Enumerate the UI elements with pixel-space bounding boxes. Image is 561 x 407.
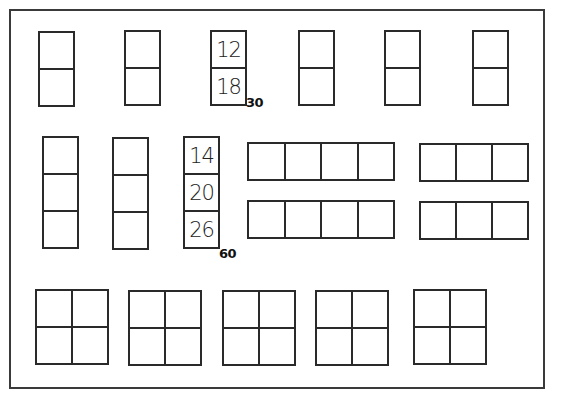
box-cell xyxy=(37,291,73,328)
box-cell xyxy=(457,203,493,240)
box-group-r3g4 xyxy=(315,290,389,366)
box-cell xyxy=(353,329,389,366)
box-group-r1g4 xyxy=(298,30,335,106)
box-group-r2g5 xyxy=(419,143,529,182)
box-cell xyxy=(114,139,149,176)
box-group-r1g5 xyxy=(384,30,421,106)
box-cell xyxy=(421,145,457,182)
box-cell xyxy=(451,328,487,365)
box-cell xyxy=(126,32,161,69)
box-cell xyxy=(130,292,166,329)
box-cell xyxy=(260,292,296,329)
box-cell xyxy=(317,292,353,329)
box-group-r1g3: 1218 xyxy=(210,30,247,106)
box-cell xyxy=(493,203,529,240)
box-cell xyxy=(300,69,335,106)
box-cell xyxy=(37,328,73,365)
box-cell xyxy=(73,291,109,328)
box-cell xyxy=(73,328,109,365)
box-cell xyxy=(224,292,260,329)
box-cell: 26 xyxy=(185,212,220,249)
box-cell xyxy=(40,70,75,107)
box-group-r1g1 xyxy=(38,31,75,107)
box-cell xyxy=(415,291,451,328)
box-group-r1g2 xyxy=(124,30,161,106)
box-group-r2g1 xyxy=(42,136,79,249)
box-cell xyxy=(300,32,335,69)
box-cell xyxy=(421,203,457,240)
box-cell xyxy=(322,202,359,239)
box-group-r3g2 xyxy=(128,290,202,366)
box-cell xyxy=(386,69,421,106)
box-cell xyxy=(40,33,75,70)
box-group-r3g3 xyxy=(222,290,296,366)
box-cell xyxy=(224,329,260,366)
box-cell xyxy=(166,292,202,329)
box-group-r1g6 xyxy=(472,30,509,106)
box-cell xyxy=(286,202,323,239)
box-group-r2g2 xyxy=(112,137,149,250)
box-cell xyxy=(286,144,323,181)
box-cell xyxy=(130,329,166,366)
box-cell xyxy=(260,329,296,366)
box-cell xyxy=(322,144,359,181)
box-cell xyxy=(249,202,286,239)
box-cell xyxy=(126,69,161,106)
box-cell xyxy=(44,175,79,212)
box-group-r2g4 xyxy=(247,142,395,181)
box-group-r3g5 xyxy=(413,289,487,365)
box-group-r2g7 xyxy=(419,201,529,240)
box-cell xyxy=(44,138,79,175)
box-cell xyxy=(359,202,396,239)
box-cell xyxy=(166,329,202,366)
box-group-r3g1 xyxy=(35,289,109,365)
box-cell xyxy=(415,328,451,365)
box-cell: 18 xyxy=(212,69,247,106)
group-total-label: 60 xyxy=(219,246,236,261)
box-cell xyxy=(474,32,509,69)
box-cell: 14 xyxy=(185,138,220,175)
box-cell: 20 xyxy=(185,175,220,212)
box-cell xyxy=(386,32,421,69)
box-cell xyxy=(359,144,396,181)
box-cell xyxy=(114,176,149,213)
box-group-r2g3: 142026 xyxy=(183,136,220,249)
box-cell xyxy=(317,329,353,366)
box-cell xyxy=(353,292,389,329)
group-total-label: 30 xyxy=(246,95,263,110)
box-group-r2g6 xyxy=(247,200,395,239)
box-cell xyxy=(249,144,286,181)
box-cell xyxy=(474,69,509,106)
box-cell xyxy=(44,212,79,249)
box-cell xyxy=(457,145,493,182)
box-cell: 12 xyxy=(212,32,247,69)
box-cell xyxy=(451,291,487,328)
box-cell xyxy=(493,145,529,182)
box-cell xyxy=(114,213,149,250)
